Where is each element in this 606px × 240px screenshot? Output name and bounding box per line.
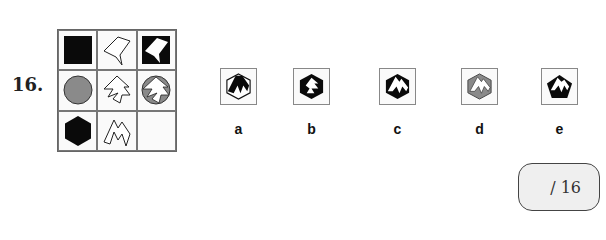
score-text: / 16 bbox=[550, 178, 581, 197]
black-square-icon bbox=[61, 33, 95, 67]
puzzle-grid bbox=[57, 29, 177, 152]
option-a-icon bbox=[224, 72, 253, 101]
zigzag-outline-icon bbox=[100, 73, 134, 107]
grid-cell-2-3 bbox=[137, 70, 176, 110]
option-e-icon bbox=[545, 72, 574, 101]
grid-cell-2-2 bbox=[97, 70, 136, 110]
polygon-outline-icon bbox=[100, 33, 134, 67]
grid-cell-3-1 bbox=[58, 111, 97, 151]
grid-cell-1-1 bbox=[58, 30, 97, 70]
option-b-label: b bbox=[293, 121, 330, 137]
option-d[interactable] bbox=[461, 68, 498, 105]
grid-cell-1-3 bbox=[137, 30, 176, 70]
option-a[interactable] bbox=[220, 68, 257, 105]
option-e[interactable] bbox=[541, 68, 578, 105]
grid-cell-2-1 bbox=[58, 70, 97, 110]
score-box: / 16 bbox=[518, 163, 600, 211]
zigzag-on-circle-icon bbox=[139, 73, 173, 107]
grid-cell-3-3-empty bbox=[137, 111, 176, 151]
grid-cell-1-2 bbox=[97, 30, 136, 70]
black-hexagon-icon bbox=[61, 114, 95, 148]
grid-cell-3-2 bbox=[97, 111, 136, 151]
option-c[interactable] bbox=[379, 68, 416, 105]
question-number: 16. bbox=[12, 74, 43, 95]
option-b[interactable] bbox=[293, 68, 330, 105]
gray-circle-icon bbox=[61, 73, 95, 107]
option-c-icon bbox=[383, 72, 412, 101]
option-d-label: d bbox=[461, 121, 498, 137]
option-d-icon bbox=[465, 72, 494, 101]
spiky-outline-icon bbox=[100, 114, 134, 148]
option-a-label: a bbox=[220, 121, 257, 137]
polygon-on-square-icon bbox=[139, 33, 173, 67]
option-e-label: e bbox=[541, 121, 578, 137]
option-b-icon bbox=[297, 72, 326, 101]
option-c-label: c bbox=[379, 121, 416, 137]
